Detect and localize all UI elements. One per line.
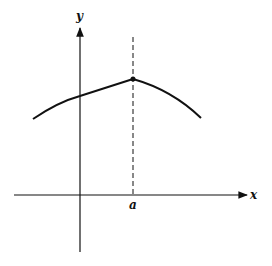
- point-a-label: a: [129, 198, 137, 212]
- curve-right-branch: [133, 79, 201, 118]
- maximum-point: [131, 77, 136, 82]
- x-axis-label: x: [249, 188, 258, 202]
- y-axis-label: y: [75, 9, 84, 23]
- curve-left-branch: [33, 79, 133, 119]
- function-graph: y x a: [0, 0, 272, 266]
